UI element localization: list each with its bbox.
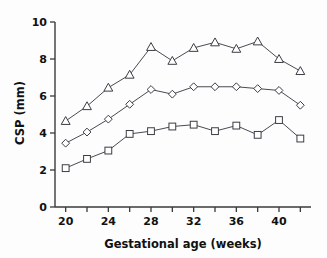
series-median: [62, 83, 304, 147]
figure-container: 202428323640 0246810 Gestational age (we…: [0, 0, 327, 258]
y-tick-label: 8: [39, 53, 47, 66]
x-tick-label: 36: [229, 215, 245, 228]
chart-axes: [55, 22, 311, 207]
data-point-marker: [275, 87, 283, 95]
x-axis-title: Gestational age (weeks): [104, 237, 262, 251]
data-point-marker: [104, 83, 113, 91]
y-tick-label: 4: [39, 127, 47, 140]
x-tick-label: 32: [186, 215, 201, 228]
data-point-marker: [169, 123, 176, 130]
data-point-marker: [211, 38, 220, 46]
y-axis-title: CSP (mm): [13, 81, 27, 145]
axis-ticks: [50, 22, 300, 212]
data-point-marker: [211, 83, 219, 91]
data-point-marker: [168, 90, 176, 98]
x-tick-label: 40: [271, 215, 287, 228]
x-axis-tick-labels: 202428323640: [58, 215, 287, 228]
data-point-marker: [147, 43, 156, 51]
data-point-marker: [297, 135, 304, 142]
y-tick-label: 2: [39, 164, 47, 177]
data-point-marker: [104, 115, 112, 123]
data-point-marker: [254, 85, 262, 93]
y-axis-tick-labels: 0246810: [32, 16, 48, 214]
data-point-marker: [276, 117, 283, 124]
y-tick-label: 10: [32, 16, 48, 29]
data-point-marker: [126, 131, 133, 138]
series-upper-percentile: [61, 37, 305, 124]
data-point-marker: [233, 122, 240, 129]
data-point-marker: [84, 156, 91, 163]
x-tick-label: 20: [58, 215, 74, 228]
data-point-marker: [148, 128, 155, 135]
data-point-marker: [275, 55, 284, 63]
data-point-marker: [254, 131, 261, 138]
data-point-marker: [190, 121, 197, 128]
data-point-marker: [296, 67, 305, 75]
data-point-marker: [147, 86, 155, 94]
data-point-marker: [62, 139, 70, 147]
data-series-group: [61, 37, 305, 172]
data-point-marker: [232, 83, 240, 91]
data-point-marker: [62, 165, 69, 172]
data-point-marker: [190, 83, 198, 91]
y-tick-label: 6: [39, 90, 47, 103]
data-point-marker: [296, 101, 304, 109]
line-chart: 202428323640 0246810 Gestational age (we…: [0, 0, 327, 258]
data-point-marker: [168, 56, 177, 64]
x-tick-label: 24: [101, 215, 117, 228]
data-point-marker: [61, 117, 70, 125]
y-tick-label: 0: [39, 201, 47, 214]
data-point-marker: [212, 128, 219, 135]
data-point-marker: [83, 128, 91, 136]
data-point-marker: [126, 100, 134, 108]
x-tick-label: 28: [143, 215, 158, 228]
data-point-marker: [105, 147, 112, 154]
data-point-marker: [253, 37, 262, 45]
